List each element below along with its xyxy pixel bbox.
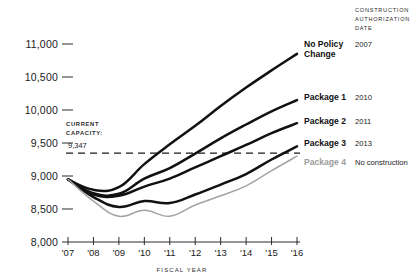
legend-date: No construction [355,158,408,167]
x-tick-label: '13 [214,247,226,258]
x-tick-label: '15 [265,247,277,258]
capacity-value: 9,347 [68,141,87,150]
y-tick-label: 10,000 [25,104,58,116]
chart-container: 11,000 10,500 10,000 9,500 9,000 8,500 8… [0,0,418,278]
x-tick-label: '10 [138,247,150,258]
x-tick-label: '07 [62,247,74,258]
x-axis-title: FISCAL YEAR [157,267,208,273]
y-tick-label: 11,000 [25,38,58,50]
y-tick-label: 9,000 [31,170,58,182]
legend-header-line3: DATE [355,25,373,31]
x-tick-label: '08 [87,247,99,258]
legend-item-package-3[interactable]: Package 3 2013 [304,138,372,148]
y-tick-label: 9,500 [31,137,58,149]
legend: No Policy Change 2007 Package 1 2010 Pac… [304,39,408,167]
legend-label: Package 1 [304,92,346,102]
legend-label: Package 3 [304,138,346,148]
legend-label: Package 2 [304,116,346,126]
legend-date: 2010 [355,93,372,102]
legend-item-package-2[interactable]: Package 2 2011 [304,116,371,126]
current-capacity-annotation: CURRENT CAPACITY: 9,347 [66,121,103,150]
legend-item-package-4[interactable]: Package 4 No construction [304,157,408,167]
x-axis-ticks [68,237,297,245]
series-line-no-policy-change [68,54,297,191]
x-tick-label: '14 [240,247,252,258]
x-tick-label: '11 [164,247,176,258]
legend-date: 2011 [355,117,371,126]
legend-date: 2013 [355,139,372,148]
legend-item-no-policy-change[interactable]: No Policy Change 2007 [304,39,372,59]
series-line-package-1 [68,100,297,196]
legend-label-line1: No Policy [304,39,343,49]
y-axis-labels: 11,000 10,500 10,000 9,500 9,000 8,500 8… [25,38,58,248]
legend-date: 2007 [355,40,372,49]
legend-item-package-1[interactable]: Package 1 2010 [304,92,372,102]
y-tick-label: 8,000 [31,236,58,248]
x-tick-label: '12 [189,247,201,258]
y-tick-label: 10,500 [25,71,58,83]
capacity-label-line2: CAPACITY: [66,130,103,136]
line-chart-svg: 11,000 10,500 10,000 9,500 9,000 8,500 8… [0,0,418,278]
y-tick-label: 8,500 [31,203,58,215]
x-tick-label: '16 [291,247,303,258]
legend-header-line2: AUTHORIZATION [355,16,410,22]
capacity-label-line1: CURRENT [66,121,99,127]
legend-header-line1: CONSTRUCTION [355,7,409,13]
legend-column-header: CONSTRUCTION AUTHORIZATION DATE [355,7,410,31]
legend-label: Package 4 [304,157,346,167]
legend-label-line2: Change [304,49,336,59]
x-tick-label: '09 [113,247,125,258]
x-axis-labels: '07'08'09'10'11'12'13'14'15'16 [62,247,303,258]
